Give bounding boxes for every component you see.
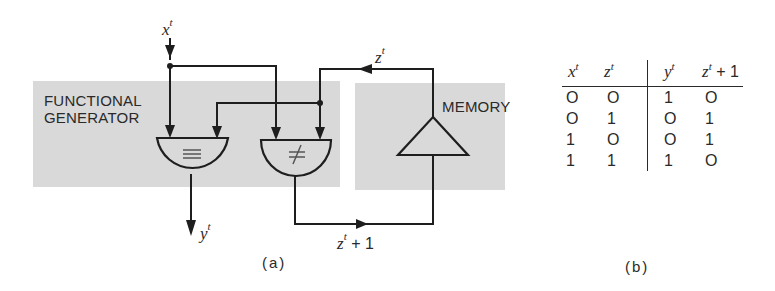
table-row: O O 1 O [562, 86, 743, 108]
cell-y: O [648, 108, 697, 129]
cell-x: O [562, 86, 598, 108]
logic-circuit-figure: FUNCTIONAL GENERATOR MEMORY xt zt yt zt … [0, 0, 775, 291]
caption-b: (b) [625, 258, 649, 275]
cell-z-next: O [696, 86, 743, 108]
truth-table-header: xt zt yt zt + 1 [562, 60, 743, 86]
cell-z-next: O [696, 150, 743, 171]
header-z: zt [598, 60, 648, 86]
cell-x: 1 [562, 129, 598, 150]
z-sup: t [382, 44, 385, 56]
truth-table: xt zt yt zt + 1 O O 1 O O 1 O 1 1 O [562, 60, 743, 171]
caption-a: (a) [262, 254, 286, 271]
z-arrow-icon [358, 64, 372, 74]
memory-label: MEMORY [442, 98, 510, 115]
cell-z: 1 [598, 150, 648, 171]
y-output-arrow [186, 220, 196, 236]
z-state-label: zt [375, 46, 385, 68]
functional-label-line1: FUNCTIONAL [44, 92, 142, 109]
z-next-arrow [356, 219, 368, 229]
header-y: yt [648, 60, 697, 86]
header-x: xt [562, 60, 598, 86]
functional-generator-label: FUNCTIONAL GENERATOR [44, 92, 142, 126]
y-sup: t [208, 220, 211, 232]
z-junction-dot [317, 100, 323, 106]
cell-z: O [598, 86, 648, 108]
z-base: z [375, 48, 382, 67]
table-row: O 1 O 1 [562, 108, 743, 129]
x-base: x [162, 20, 170, 39]
cell-z: O [598, 129, 648, 150]
y-output-label: yt [200, 222, 211, 244]
cell-z: 1 [598, 108, 648, 129]
x-junction-dot [167, 63, 173, 69]
x-sup: t [170, 16, 173, 28]
x-input-arrow [165, 45, 175, 58]
z-next-label: zt + 1 [337, 232, 374, 254]
cell-z-next: 1 [696, 129, 743, 150]
cell-x: O [562, 108, 598, 129]
cell-z-next: 1 [696, 108, 743, 129]
y-base: y [200, 224, 208, 243]
znext-base: z [337, 234, 344, 253]
header-z-next: zt + 1 [696, 60, 743, 86]
cell-y: O [648, 129, 697, 150]
generator-label-line2: GENERATOR [44, 109, 142, 126]
cell-y: 1 [648, 86, 697, 108]
table-row: 1 1 1 O [562, 150, 743, 171]
x-input-label: xt [162, 18, 173, 40]
znext-sup: t [344, 230, 347, 242]
cell-y: 1 [648, 150, 697, 171]
cell-x: 1 [562, 150, 598, 171]
znext-suffix: + 1 [347, 235, 374, 252]
table-row: 1 O O 1 [562, 129, 743, 150]
